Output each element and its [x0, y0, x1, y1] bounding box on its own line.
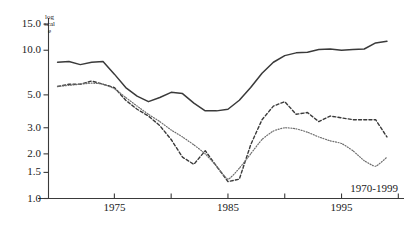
series-line-solid [58, 41, 387, 111]
y-tick-label: 10.0 [0, 43, 41, 55]
y-tick-label: 3.0 [0, 121, 41, 133]
y-axis-ticks [44, 24, 49, 198]
x-axis-ticks [114, 194, 398, 199]
y-tick-label: 15.0 [0, 17, 41, 29]
chart-series-group [58, 41, 387, 181]
x-tick-label: 1995 [312, 201, 372, 213]
y-tick-label: 2.0 [0, 147, 41, 159]
y-tick-label: 5.0 [0, 88, 41, 100]
y-tick-label: 1.0 [0, 192, 41, 204]
y-axis-title: log scale [44, 14, 55, 36]
range-annotation: 1970-1999 [350, 182, 398, 194]
x-tick-label: 1985 [198, 201, 258, 213]
x-tick-label: 1975 [84, 201, 144, 213]
chart-plot-area [0, 0, 408, 235]
series-line-dotted [58, 83, 387, 179]
series-line-dashed [58, 81, 387, 182]
y-tick-label: 1.5 [0, 165, 41, 177]
chart-figure: 15.010.05.03.02.01.51.0 197519851995 log… [0, 0, 408, 235]
